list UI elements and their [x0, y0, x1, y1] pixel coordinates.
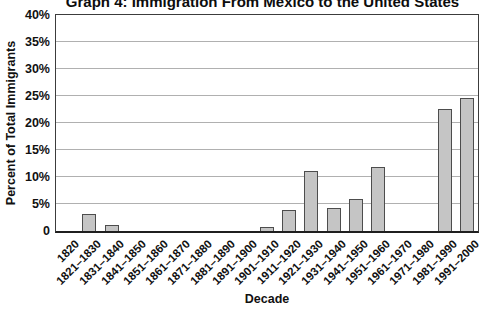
y-tick-label: 30% — [0, 61, 50, 77]
y-tick-label: 40% — [0, 7, 50, 23]
bar-1901–1910 — [260, 227, 274, 231]
immigration-bar-chart: Graph 4: Immigration From Mexico to the … — [0, 0, 485, 314]
gridline — [56, 95, 478, 96]
bar-1831–1840 — [105, 225, 119, 231]
gridline — [56, 41, 478, 42]
x-axis-title: Decade — [55, 292, 479, 306]
gridline — [56, 68, 478, 69]
bar-1921–1930 — [304, 171, 318, 231]
gridline — [56, 176, 478, 177]
gridline — [56, 122, 478, 123]
y-tick-label: 15% — [0, 142, 50, 158]
y-tick-label: 5% — [0, 196, 50, 212]
y-tick-label: 0 — [0, 223, 50, 239]
bar-1941–1950 — [349, 199, 363, 231]
bar-1991–2000 — [460, 98, 474, 231]
chart-title: Graph 4: Immigration From Mexico to the … — [40, 0, 485, 10]
gridline — [56, 149, 478, 150]
bar-1981–1990 — [438, 109, 452, 231]
plot-area — [55, 14, 479, 233]
bar-1951–1960 — [371, 167, 385, 231]
y-tick-label: 20% — [0, 115, 50, 131]
bar-1821–1830 — [82, 214, 96, 231]
bar-1911–1920 — [282, 210, 296, 231]
gridline — [56, 203, 478, 204]
x-axis-tick-labels: 18201821–18301831–18401841–18501851–1860… — [55, 237, 479, 297]
bar-1931–1940 — [327, 208, 341, 231]
y-tick-label: 25% — [0, 88, 50, 104]
y-axis-tick-labels: 40%35%30%25%20%15%10%5%0 — [0, 15, 50, 231]
y-tick-label: 35% — [0, 34, 50, 50]
y-tick-label: 10% — [0, 169, 50, 185]
